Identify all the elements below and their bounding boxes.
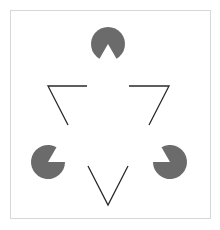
pacman-top xyxy=(91,27,125,59)
v-shape-bottom xyxy=(88,166,128,205)
figure-canvas xyxy=(0,0,220,230)
v-shape-left xyxy=(48,86,87,125)
v-shape-right xyxy=(129,86,169,125)
kanizsa-figure: Kanizsa triangle illusion xyxy=(0,0,220,230)
pacman-bottom-left xyxy=(31,145,65,179)
pacman-bottom-right xyxy=(153,145,187,179)
v-shape-group xyxy=(48,86,169,205)
pacman-group xyxy=(31,27,187,179)
